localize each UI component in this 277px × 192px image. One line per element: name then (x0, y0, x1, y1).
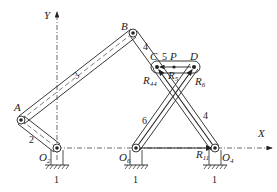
label-r5: R5 (167, 69, 179, 83)
label-link-6: 6 (142, 115, 147, 126)
label-ground-1b: 1 (133, 174, 138, 185)
joint-d (192, 65, 196, 69)
y-axis-label: Y (44, 9, 52, 21)
x-axis-label: X (257, 127, 266, 139)
joint-a (17, 116, 25, 124)
label-c: C (150, 50, 158, 62)
joint-c (155, 65, 159, 69)
joint-b (129, 29, 137, 37)
label-d: D (189, 50, 198, 62)
linkage-diagram: Y X A B C D P O2 O6 O4 2 3 4 5 6 4 1 1 1… (0, 0, 277, 192)
label-o6: O6 (119, 151, 131, 165)
label-a: A (13, 101, 21, 113)
label-ground-1c: 1 (212, 174, 217, 185)
label-o2: O2 (39, 151, 51, 165)
label-b: B (121, 20, 128, 32)
link-4-lower (153, 64, 219, 150)
link-6 (132, 64, 198, 150)
label-link-5: 5 (162, 51, 167, 62)
label-link-4: 4 (203, 110, 208, 121)
label-p: P (169, 50, 177, 62)
label-o4: O4 (222, 151, 234, 165)
label-r44: R44 (142, 74, 157, 88)
label-link-2: 2 (29, 134, 34, 145)
label-ground-1a: 1 (54, 174, 59, 185)
label-link-4-top: 4 (143, 41, 148, 52)
label-r6: R6 (194, 75, 206, 89)
label-r11: R11 (195, 148, 209, 162)
